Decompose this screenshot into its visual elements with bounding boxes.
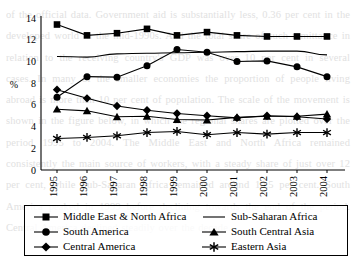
data-point-marker-circle (264, 57, 271, 64)
legend-item[interactable]: Sub-Saharan Africa (201, 209, 317, 224)
chart-legend: Middle East & North Africa South America… (24, 205, 348, 256)
x-axis-tick-label: 1997 (108, 176, 119, 197)
y-axis-tick-label: 4 (31, 121, 36, 132)
legend-item[interactable]: Central America (33, 239, 186, 254)
data-point-marker-diamond (83, 94, 91, 102)
data-point-marker-square (204, 29, 211, 36)
x-axis-tick-labels: 1995199619971998199920002001200220032004 (48, 170, 329, 197)
legend-column-right: Sub-Saharan Africa South Central Asia Ea… (201, 209, 317, 254)
chart-series (53, 127, 331, 143)
data-point-marker-circle (84, 73, 91, 80)
x-axis-tick-label: 2003 (288, 176, 299, 197)
x-axis-tick-label: 1999 (168, 176, 179, 197)
data-point-marker-square (54, 21, 61, 28)
x-axis-tick-label: 1996 (78, 176, 89, 197)
data-point-marker-square (294, 33, 301, 40)
x-axis-tick-label: 1995 (48, 176, 59, 197)
data-point-marker-circle (324, 73, 331, 80)
y-axis-tick-label: 8 (31, 78, 36, 89)
chart-series (57, 51, 327, 57)
x-axis-tick-label: 1998 (138, 176, 149, 197)
data-point-marker-circle (294, 63, 301, 70)
data-point-marker-circle (144, 62, 151, 69)
legend-marker-line-icon (201, 210, 227, 224)
y-axis-tick-labels: 02468101214 (26, 13, 36, 176)
legend-marker-asterisk-icon (201, 240, 227, 254)
legend-item[interactable]: South America (33, 224, 186, 239)
x-axis-tick-label: 2004 (318, 175, 329, 197)
data-point-marker-diamond (233, 114, 241, 122)
data-point-marker-square (234, 32, 241, 39)
y-axis-tick-label: 10 (26, 56, 36, 67)
legend-label: Central America (63, 241, 135, 252)
data-point-marker-diamond (113, 102, 121, 110)
legend-label: South Central Asia (231, 226, 314, 237)
legend-item[interactable]: Eastern Asia (201, 239, 317, 254)
data-point-marker-square (84, 32, 91, 39)
data-point-marker-square (174, 32, 181, 39)
legend-item[interactable]: South Central Asia (201, 224, 317, 239)
legend-label: South America (63, 226, 129, 237)
series-line (57, 131, 327, 138)
legend-marker-circle-icon (33, 225, 59, 239)
series-line (57, 90, 327, 119)
y-axis-tick-label: 0 (31, 165, 36, 176)
x-axis-tick-label: 2002 (258, 176, 269, 197)
data-point-marker-circle (174, 46, 181, 53)
data-point-marker-circle (54, 94, 61, 101)
series-line (57, 25, 327, 37)
legend-label: Sub-Saharan Africa (231, 211, 317, 222)
legend-column-left: Middle East & North Africa South America… (33, 209, 186, 254)
legend-item[interactable]: Middle East & North Africa (33, 209, 186, 224)
data-point-marker-circle (204, 49, 211, 56)
x-axis-tick-label: 2000 (198, 176, 209, 197)
data-point-marker-circle (114, 74, 121, 81)
data-point-marker-square (324, 33, 331, 40)
legend-marker-triangle-icon (201, 225, 227, 239)
legend-label: Middle East & North Africa (63, 211, 186, 222)
x-axis-tick-label: 2001 (228, 176, 239, 197)
series-line (57, 51, 327, 57)
y-axis-tick-label: 12 (26, 34, 36, 45)
data-point-marker-circle (234, 58, 241, 65)
data-point-marker-diamond (53, 85, 61, 93)
chart-series (53, 85, 331, 123)
data-point-marker-diamond (293, 113, 301, 121)
data-point-marker-diamond (203, 112, 211, 120)
data-point-marker-diamond (173, 109, 181, 117)
data-point-marker-diamond (143, 106, 151, 114)
y-axis-tick-label: 2 (31, 143, 36, 154)
data-point-marker-square (144, 26, 151, 33)
y-axis-tick-label: 14 (26, 13, 36, 24)
chart-series (54, 21, 331, 40)
y-axis-title: % (10, 79, 18, 90)
legend-marker-square-icon (33, 210, 59, 224)
chart-series (54, 46, 331, 101)
data-point-marker-square (264, 33, 271, 40)
y-axis-tick-label: 6 (31, 99, 36, 110)
legend-marker-diamond-icon (33, 240, 59, 254)
legend-label: Eastern Asia (231, 241, 286, 252)
chart-plot-area: 02468101214%1995199619971998199920002001… (0, 0, 356, 205)
data-point-marker-square (114, 30, 121, 37)
